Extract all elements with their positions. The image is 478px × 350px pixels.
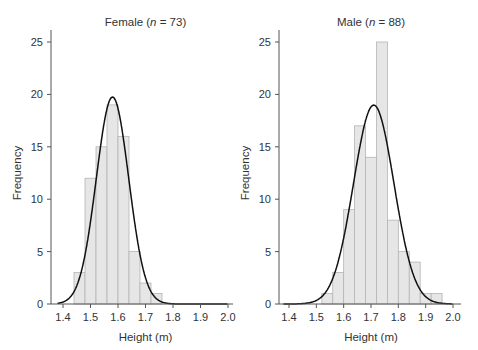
histogram-bar — [129, 252, 140, 304]
x-tick-label: 1.6 — [336, 311, 351, 323]
y-tick-label: 5 — [37, 246, 43, 258]
histogram-bar — [107, 105, 118, 304]
x-axis-label: Height (m) — [119, 331, 173, 343]
x-tick-label: 1.7 — [363, 311, 378, 323]
y-tick-label: 5 — [265, 246, 271, 258]
y-tick-label: 20 — [31, 88, 43, 100]
x-tick-label: 1.4 — [281, 311, 296, 323]
y-tick-label: 0 — [265, 298, 271, 310]
y-tick-label: 20 — [259, 88, 271, 100]
x-tick-label: 1.8 — [165, 311, 180, 323]
x-tick-label: 1.5 — [83, 311, 98, 323]
x-tick-label: 1.9 — [418, 311, 433, 323]
y-tick-label: 25 — [31, 36, 43, 48]
histogram-bar — [140, 283, 151, 304]
histogram-bar — [376, 42, 387, 304]
histogram-bar — [398, 252, 409, 304]
y-tick-label: 15 — [259, 141, 271, 153]
male-histogram-panel: 05101520251.41.51.61.71.81.92.0Height (m… — [239, 16, 461, 343]
histogram-bar — [355, 126, 366, 304]
x-tick-label: 1.8 — [391, 311, 406, 323]
histogram-bar — [344, 210, 355, 304]
histogram-bar — [118, 136, 129, 304]
x-tick-label: 2.0 — [220, 311, 235, 323]
x-tick-label: 2.0 — [445, 311, 460, 323]
panel-title: Female (n = 73) — [105, 16, 187, 28]
histogram-bar — [366, 157, 377, 304]
x-tick-label: 1.6 — [110, 311, 125, 323]
female-histogram-panel: 05101520251.41.51.61.71.81.92.0Height (m… — [11, 16, 236, 343]
x-tick-label: 1.9 — [193, 311, 208, 323]
x-tick-label: 1.7 — [138, 311, 153, 323]
y-axis-label: Frequency — [11, 146, 23, 201]
histogram-bar — [387, 220, 398, 304]
x-tick-label: 1.4 — [55, 311, 70, 323]
y-tick-label: 25 — [259, 36, 271, 48]
y-tick-label: 10 — [259, 193, 271, 205]
x-axis-label: Height (m) — [344, 331, 398, 343]
histogram-figure: 05101520251.41.51.61.71.81.92.0Height (m… — [0, 0, 478, 350]
histogram-bar — [333, 273, 344, 304]
y-tick-label: 10 — [31, 193, 43, 205]
x-tick-label: 1.5 — [309, 311, 324, 323]
panel-title: Male (n = 88) — [337, 16, 405, 28]
y-axis-label: Frequency — [239, 146, 251, 201]
y-tick-label: 0 — [37, 298, 43, 310]
y-tick-label: 15 — [31, 141, 43, 153]
